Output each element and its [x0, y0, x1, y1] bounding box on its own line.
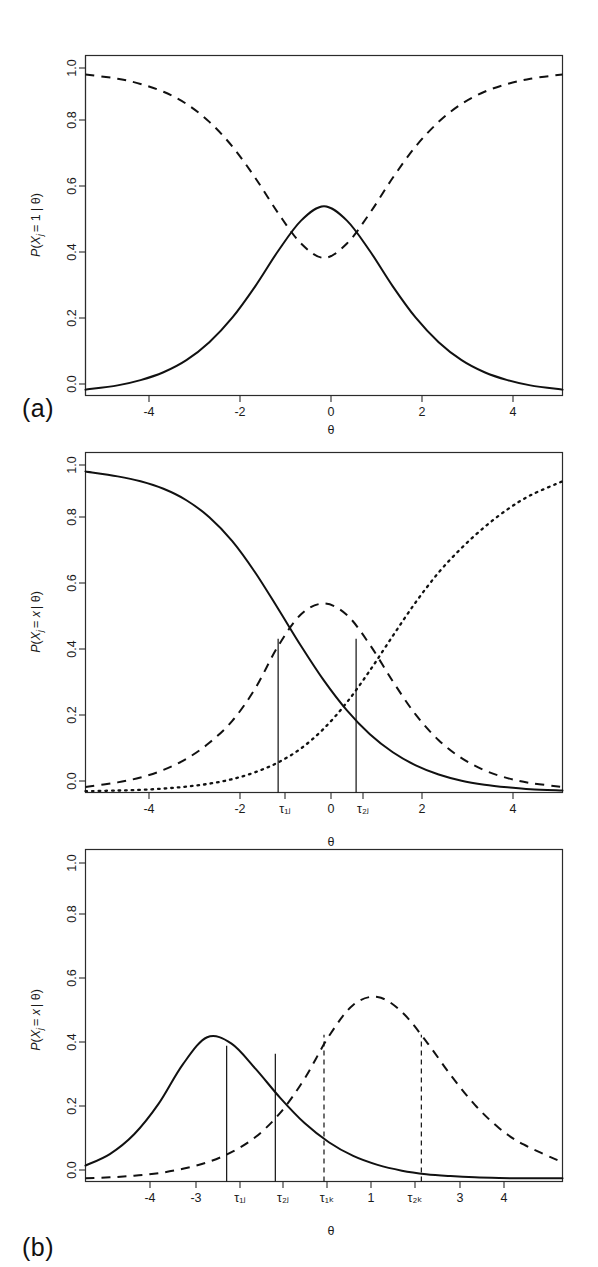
panel-a-y-axis-label: P(Xj= 1 | θ)	[29, 193, 45, 257]
panel-a-xtick-4: 4	[510, 405, 517, 419]
panel-c-threshold-lines	[227, 1035, 422, 1182]
panel-c-ytick-1: 0.2	[65, 1097, 79, 1114]
panel-a-ytick-2: 0.4	[65, 243, 79, 260]
panel-c-xtick-3: τ₂ⱼ	[277, 1191, 289, 1205]
panel-c-ytick-2: 0.4	[65, 1033, 79, 1050]
panel-b-curves	[86, 471, 563, 791]
panel-b-y-axis: 0.0 0.2 0.4 0.6 0.8 1.0	[65, 456, 85, 789]
panel-a-xtick-0: -4	[143, 405, 154, 419]
panel-b-ytick-0: 0.0	[65, 772, 79, 789]
panel-a-xtick-3: 2	[419, 405, 426, 419]
panel-b-ytick-4: 0.8	[65, 508, 79, 525]
panel-b-ytick-3: 0.6	[65, 574, 79, 591]
panel-b-x-axis: -4 -2 τ₁ⱼ 0 τ₂ⱼ 2 4	[86, 793, 563, 817]
panel-a-ytick-1: 0.2	[65, 309, 79, 326]
curve-dotted-2	[86, 481, 563, 791]
panel-a-frame	[86, 56, 563, 396]
panel-b-ytick-1: 0.2	[65, 706, 79, 723]
panel-a-plot: 0.0 0.2 0.4 0.6 0.8 1.0 P(Xj= 1 | θ) -4 …	[0, 0, 598, 430]
panel-b-ytick-5: 1.0	[65, 456, 79, 473]
panel-c-ytick-3: 0.6	[65, 969, 79, 986]
panel-a-y-axis: 0.0 0.2 0.4 0.6 0.8 1.0	[65, 56, 85, 396]
curve-solid-0	[86, 206, 563, 389]
panel-c-plot: 0.0 0.2 0.4 0.6 0.8 1.0 P(Xj= x| θ) -4 -…	[0, 840, 598, 1267]
panel-c-ytick-5: 1.0	[65, 854, 79, 871]
panel-a: 0.0 0.2 0.4 0.6 0.8 1.0 P(Xj= 1 | θ) -4 …	[0, 0, 598, 430]
panel-b-threshold-lines	[278, 639, 356, 793]
panel-b-ytick-2: 0.4	[65, 640, 79, 657]
panel-a-curves	[86, 74, 563, 389]
panel-c-xtick-0: -4	[144, 1191, 155, 1205]
panel-c-xtick-2: τ₁ⱼ	[234, 1191, 245, 1205]
panel-b-xtick-5: 2	[419, 802, 426, 816]
panel-a-ytick-4: 0.8	[65, 111, 79, 128]
panel-c: 0.0 0.2 0.4 0.6 0.8 1.0 P(Xj= x| θ) -4 -…	[0, 840, 598, 1267]
panel-c-xtick-4: τ₁ₖ	[320, 1191, 334, 1205]
panel-c-xtick-6: τ₂ₖ	[407, 1191, 422, 1205]
panel-c-x-axis: -4 -3 τ₁ⱼ τ₂ⱼ τ₁ₖ 1 τ₂ₖ 3 4	[86, 1182, 563, 1206]
panel-c-xtick-1: -3	[190, 1191, 201, 1205]
panel-b-plot: 0.0 0.2 0.4 0.6 0.8 1.0 P(Xj= x| θ) -4 -…	[0, 425, 598, 845]
panel-b-xtick-3: 0	[328, 802, 335, 816]
panel-a-x-axis: -4 -2 0 2 4	[86, 396, 563, 420]
curve-dashed-1	[86, 604, 563, 787]
panel-b-y-axis-label: P(Xj= x| θ)	[29, 591, 45, 653]
panel-c-xtick-7: 3	[457, 1191, 464, 1205]
panel-b-xtick-6: 4	[510, 802, 517, 816]
panel-b: 0.0 0.2 0.4 0.6 0.8 1.0 P(Xj= x| θ) -4 -…	[0, 425, 598, 845]
panel-c-xtick-5: 1	[368, 1191, 375, 1205]
panel-a-xtick-2: 0	[328, 405, 335, 419]
curve-solid-0	[86, 471, 563, 790]
panel-c-ytick-4: 0.8	[65, 905, 79, 922]
panel-b-frame	[86, 453, 563, 793]
panel-a-ytick-5: 1.0	[65, 59, 79, 76]
panel-c-y-axis-label: P(Xj= x| θ)	[29, 989, 45, 1051]
panel-b-xtick-2: τ₁ⱼ	[279, 802, 290, 816]
panel-c-xtick-8: 4	[501, 1191, 508, 1205]
curve-dashed-1	[86, 74, 563, 257]
panel-b-xtick-4: τ₂ⱼ	[357, 802, 369, 816]
panel-c-y-axis: 0.0 0.2 0.4 0.6 0.8 1.0	[65, 854, 85, 1178]
panel-a-tag: (a)	[22, 394, 54, 423]
panel-b-xtick-1: -2	[234, 802, 245, 816]
panel-b-xtick-0: -4	[143, 802, 154, 816]
panel-a-xtick-1: -2	[234, 405, 245, 419]
panel-a-ytick-3: 0.6	[65, 177, 79, 194]
panel-a-ytick-0: 0.0	[65, 375, 79, 392]
panel-c-ytick-0: 0.0	[65, 1161, 79, 1178]
